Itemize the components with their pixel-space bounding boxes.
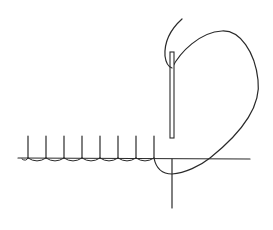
stitch-ticks — [28, 136, 154, 158]
stitch-diagram — [0, 0, 273, 230]
needle-icon — [170, 52, 174, 138]
stitch-diagram-svg — [0, 0, 273, 230]
